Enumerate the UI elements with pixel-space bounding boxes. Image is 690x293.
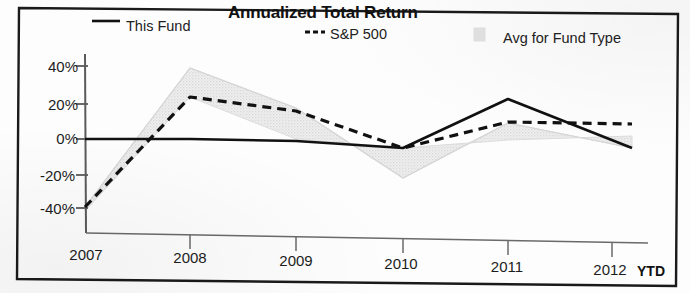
y-tick-label-40: 40% (22, 59, 78, 74)
legend-label-avg-fund-type: Avg for Fund Type (503, 31, 621, 46)
chart-title: Annualized Total Return (228, 4, 418, 21)
x-tick-label-2009: 2009 (266, 253, 326, 268)
x-tick-label-2007: 2007 (56, 247, 116, 262)
y-tick-label-neg40: -40% (19, 201, 75, 216)
legend-label-sp500: S&P 500 (330, 27, 387, 42)
x-axis-ytd-label: YTD (637, 264, 665, 278)
y-tick-label-0: 0% (22, 131, 78, 146)
x-tick-label-2012: 2012 (580, 262, 640, 277)
annualized-total-return-chart: Annualized Total Return This Fund S&P 50… (0, 0, 690, 293)
legend-gray-swatch-marker (474, 28, 485, 41)
x-axis-line (86, 233, 648, 243)
x-tick-label-2011: 2011 (477, 259, 537, 274)
legend-label-this-fund: This Fund (126, 19, 190, 34)
x-tick-label-2008: 2008 (160, 250, 220, 265)
y-tick-label-neg20: -20% (19, 168, 75, 183)
x-tick-label-2010: 2010 (371, 256, 431, 271)
y-tick-label-20: 20% (22, 97, 78, 112)
